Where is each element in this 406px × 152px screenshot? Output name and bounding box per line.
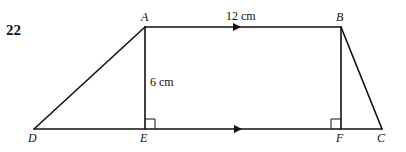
- side-bc: [341, 27, 382, 129]
- parallel-arrow-ab-icon: [233, 23, 241, 31]
- vertex-label-a: A: [140, 10, 149, 24]
- vertex-label-e: E: [139, 131, 148, 145]
- parallel-arrow-dc-icon: [234, 125, 242, 133]
- question-number: 22: [6, 22, 21, 38]
- side-ad: [34, 27, 145, 129]
- measurement-ab: 12 cm: [226, 9, 256, 23]
- right-angle-e-icon: [145, 119, 155, 129]
- trapezium-diagram: 22 12 cm 6 cm A B C D E F: [0, 0, 406, 152]
- vertex-label-b: B: [336, 10, 344, 24]
- measurement-ae: 6 cm: [150, 75, 174, 89]
- right-angle-f-icon: [331, 119, 341, 129]
- vertex-label-f: F: [335, 131, 344, 145]
- vertex-label-c: C: [377, 131, 386, 145]
- parallel-markers: [233, 23, 242, 133]
- trapezium-outline: [34, 27, 382, 129]
- right-angle-markers: [145, 119, 341, 129]
- vertex-label-d: D: [27, 131, 37, 145]
